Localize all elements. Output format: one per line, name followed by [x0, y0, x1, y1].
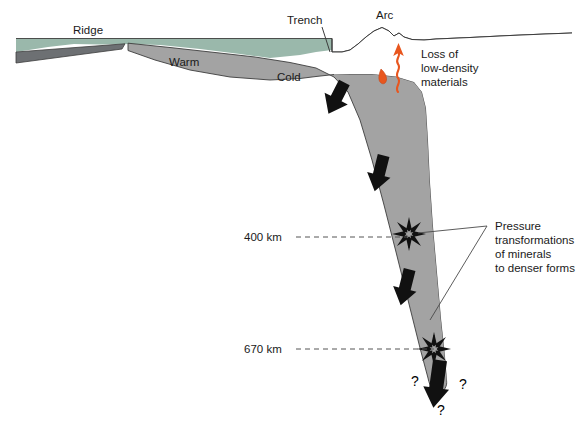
question-mark-left: ? — [411, 373, 419, 389]
pressure-line-2: transformations — [495, 234, 575, 246]
question-mark-right: ? — [459, 376, 467, 392]
label-trench: Trench — [287, 14, 322, 26]
label-arc: Arc — [376, 9, 394, 21]
label-depth-400km: 400 km — [244, 231, 282, 243]
slab-body — [128, 43, 447, 392]
label-depth-670km: 670 km — [244, 343, 282, 355]
subducting-slab — [128, 43, 447, 392]
loss-line-1: Loss of — [421, 48, 459, 60]
label-ridge: Ridge — [73, 24, 103, 36]
loss-line-2: low-density — [421, 62, 479, 74]
label-warm: Warm — [169, 56, 199, 68]
question-mark-bottom: ? — [437, 402, 445, 418]
pressure-line-1: Pressure — [495, 220, 541, 232]
label-cold: Cold — [277, 71, 301, 83]
subduction-zone-diagram: Ridge Trench Arc Warm Cold Loss of low-d… — [0, 0, 580, 427]
pressure-line-4: to denser forms — [495, 262, 575, 274]
pressure-line-3: of minerals — [495, 248, 551, 260]
diagram-canvas: Ridge Trench Arc Warm Cold Loss of low-d… — [0, 0, 580, 427]
loss-line-3: materials — [421, 76, 468, 88]
